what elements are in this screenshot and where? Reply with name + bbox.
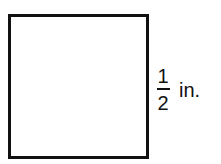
fraction-bar [157, 88, 170, 90]
square-shape [8, 14, 149, 159]
fraction-denominator: 2 [157, 93, 168, 113]
side-length-label: 1 2 in. [156, 66, 200, 113]
unit-label: in. [179, 80, 200, 100]
fraction: 1 2 [156, 66, 170, 113]
fraction-numerator: 1 [157, 66, 168, 86]
